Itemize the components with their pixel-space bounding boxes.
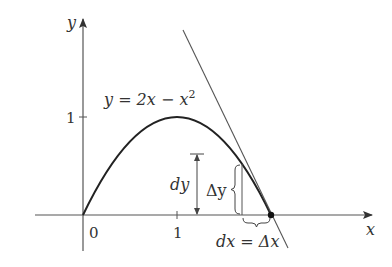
differential-diagram: y x 1 1 0 y = 2x − x2 dy Δy dx = Δx	[0, 0, 392, 267]
delta-y-text: Δy	[206, 181, 227, 200]
tangent-point	[268, 212, 274, 218]
dy-label: dy	[170, 175, 190, 194]
delta-y-brace	[231, 165, 240, 214]
parabola-curve	[83, 117, 271, 215]
delta-y-label: Δy	[206, 181, 227, 200]
function-label-text: y = 2x − x	[103, 90, 188, 109]
x-axis-label: x	[366, 220, 375, 239]
function-label-exponent: 2	[188, 88, 195, 101]
y-tick-label-1: 1	[66, 109, 76, 127]
y-axis-label: y	[66, 13, 77, 32]
x-tick-label-1: 1	[173, 224, 183, 242]
dx-label: dx = Δx	[216, 232, 279, 251]
dx-brace	[243, 218, 270, 227]
function-label: y = 2x − x2	[103, 88, 195, 109]
x-tick-label-0: 0	[89, 224, 99, 242]
